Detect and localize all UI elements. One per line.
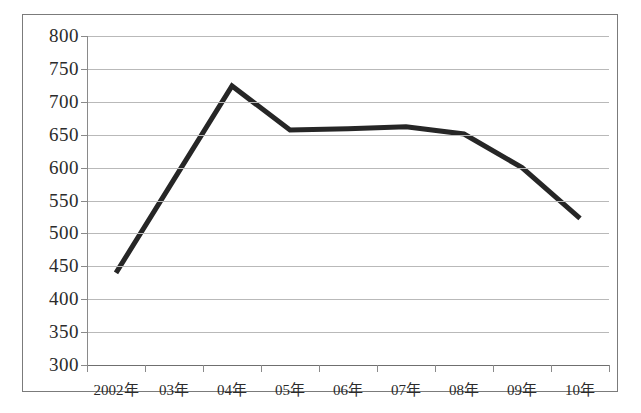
y-axis-tick-label: 800: [49, 25, 79, 47]
x-axis-tick-label: 06年: [333, 378, 363, 399]
x-axis-tick: [203, 365, 204, 372]
x-axis-tick-label: 08年: [449, 378, 479, 399]
y-axis-tick-label: 450: [49, 255, 79, 277]
x-axis-tick: [435, 365, 436, 372]
chart-figure-frame: 800750700650600550500450400350300 2002年0…: [22, 14, 618, 392]
gridline-y: [87, 201, 609, 202]
gridline-y: [87, 266, 609, 267]
x-axis-tick: [551, 365, 552, 372]
y-axis-tick-label: 300: [49, 354, 79, 376]
x-axis-tick: [377, 365, 378, 372]
y-axis-tick-label: 350: [49, 321, 79, 343]
x-axis-labels: 2002年03年04年05年06年07年08年09年10年: [87, 365, 610, 405]
y-axis-tick-label: 400: [49, 288, 79, 310]
y-axis-tick-label: 600: [49, 157, 79, 179]
gridline-y: [87, 36, 609, 37]
x-axis-tick-label: 09年: [507, 378, 537, 399]
x-axis-tick-label: 2002年: [94, 378, 139, 399]
y-axis-tick-label: 750: [49, 58, 79, 80]
x-axis-tick-label: 05年: [275, 378, 305, 399]
plot-area: 800750700650600550500450400350300: [87, 36, 609, 365]
gridline-y: [87, 69, 609, 70]
x-axis-tick: [319, 365, 320, 372]
y-axis-tick-label: 650: [49, 124, 79, 146]
gridline-y: [87, 332, 609, 333]
y-axis-line: [87, 36, 88, 366]
x-axis-tick: [493, 365, 494, 372]
gridline-y: [87, 168, 609, 169]
x-axis-tick: [261, 365, 262, 372]
x-axis-tick: [145, 365, 146, 372]
gridline-y: [87, 102, 609, 103]
y-axis-tick-label: 700: [49, 91, 79, 113]
x-axis-tick-label: 04年: [217, 378, 247, 399]
x-axis-tick-label: 10年: [565, 378, 595, 399]
x-axis-tick: [87, 365, 88, 372]
x-axis-tick-label: 03年: [159, 378, 189, 399]
x-axis-tick-label: 07年: [391, 378, 421, 399]
gridline-y: [87, 233, 609, 234]
gridline-y: [87, 299, 609, 300]
gridline-y: [87, 135, 609, 136]
y-axis-tick-label: 550: [49, 190, 79, 212]
y-axis-tick-label: 500: [49, 222, 79, 244]
x-axis-tick: [609, 365, 610, 372]
